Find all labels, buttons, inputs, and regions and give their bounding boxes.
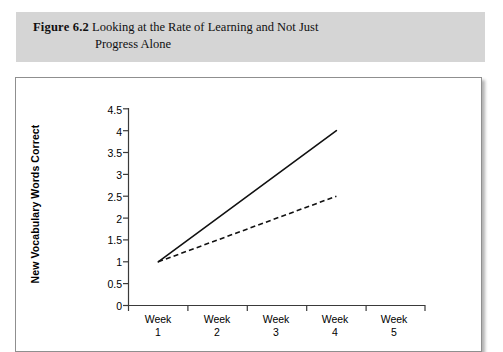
figure-panel — [15, 77, 482, 352]
figure-title-line-2: Progress Alone — [33, 36, 475, 53]
figure-caption-text: Figure 6.2 Looking at the Rate of Learni… — [33, 19, 475, 53]
figure-caption-band: Figure 6.2 Looking at the Rate of Learni… — [16, 12, 485, 62]
figure-caption-line-1: Figure 6.2 Looking at the Rate of Learni… — [33, 19, 475, 36]
figure-number-label: Figure 6.2 — [33, 20, 89, 34]
figure-title-line-1: Looking at the Rate of Learning and Not … — [92, 20, 318, 34]
